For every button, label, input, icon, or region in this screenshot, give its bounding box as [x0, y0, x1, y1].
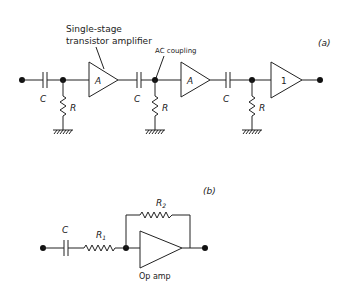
diagram-b: (b) C R1 R2 Op amp: [40, 186, 216, 281]
ground-1: [53, 130, 73, 134]
panel-label-b: (b): [203, 186, 216, 196]
cap-1-label: C: [40, 94, 47, 104]
amp-2-label: A: [186, 76, 193, 86]
coupling-annotation-leader: [156, 56, 164, 78]
cap-3-label: C: [223, 94, 230, 104]
circuit-diagram: (a) Single-stage transistor amplifier AC…: [0, 0, 340, 285]
diagram-a: (a) Single-stage transistor amplifier AC…: [19, 24, 331, 134]
output-terminal-b: [202, 245, 208, 251]
output-terminal-a: [317, 77, 323, 83]
ground-2: [145, 130, 165, 134]
r2-label: R2: [156, 198, 166, 209]
res-1-label: R: [70, 103, 76, 113]
resistor-r1: [84, 245, 115, 251]
panel-label-a: (a): [318, 38, 331, 48]
amp-1-label: A: [94, 76, 101, 86]
buffer-label: 1: [281, 76, 287, 86]
coupling-annotation: AC coupling: [155, 47, 197, 55]
cap-b-label: C: [62, 225, 69, 235]
capacitor-3: [226, 72, 230, 88]
resistor-2: [152, 80, 158, 130]
capacitor-2: [137, 72, 141, 88]
res-2-label: R: [162, 103, 168, 113]
capacitor-1: [43, 72, 47, 88]
capacitor-b: [64, 240, 68, 256]
op-amp: [140, 231, 182, 268]
opamp-label: Op amp: [139, 272, 171, 281]
amp-annotation-leader: [96, 47, 104, 69]
resistor-3: [249, 80, 255, 130]
r1-label: R1: [96, 230, 106, 241]
amp-annotation-line2: transistor amplifier: [66, 36, 152, 46]
ground-3: [242, 130, 262, 134]
resistor-1: [60, 80, 66, 130]
res-3-label: R: [259, 103, 265, 113]
resistor-r2: [140, 212, 172, 218]
cap-2-label: C: [134, 94, 141, 104]
amp-annotation-line1: Single-stage: [66, 24, 122, 34]
amplifier-2: [181, 62, 210, 97]
